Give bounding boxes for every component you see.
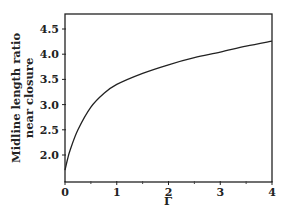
y-tick-label: 2.0 <box>40 149 59 162</box>
y-tick-label: 4.0 <box>40 48 59 61</box>
x-tick-label: 4 <box>268 186 276 199</box>
x-axis-label: Γ <box>164 194 173 208</box>
y-axis-label-line-1: Midline length ratio <box>9 33 23 164</box>
plot-frame <box>65 14 272 182</box>
y-tick-label: 4.5 <box>40 23 59 36</box>
y-tick-label: 2.5 <box>40 124 59 137</box>
x-tick-label: 0 <box>61 186 69 199</box>
y-tick-label: 3.0 <box>40 99 59 112</box>
y-tick-label: 3.5 <box>40 73 59 86</box>
chart: 2.02.53.03.54.04.5 01234 Γ Midline lengt… <box>0 0 286 217</box>
y-axis-label-line-2: near closure <box>22 58 36 138</box>
x-tick-label: 1 <box>113 186 121 199</box>
x-tick-label: 3 <box>216 186 224 199</box>
y-axis-ticks: 2.02.53.03.54.04.5 <box>40 23 66 162</box>
data-curve <box>65 41 272 170</box>
